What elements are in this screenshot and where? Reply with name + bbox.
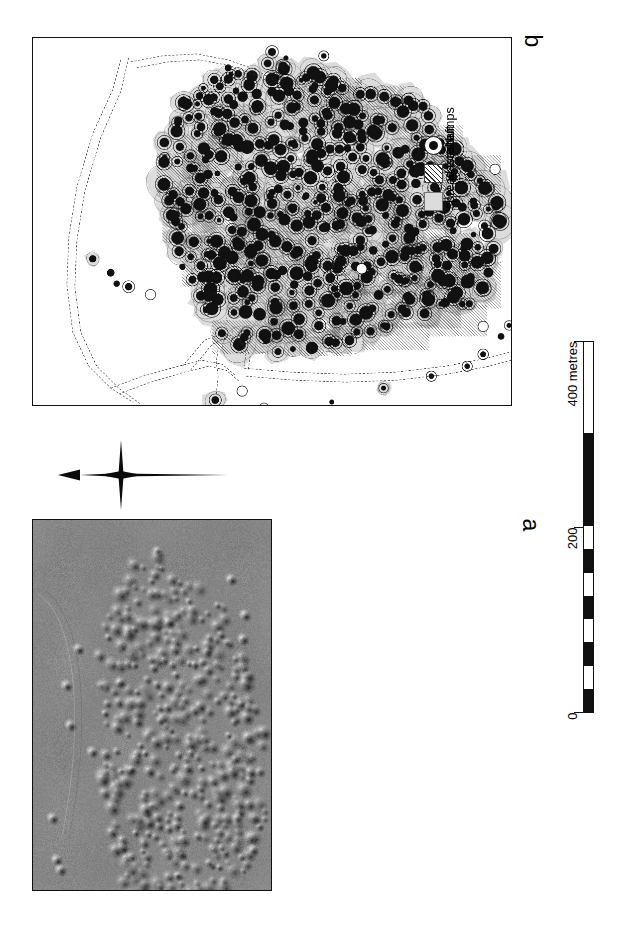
- figure-plate: b shaft waste dumps spread waste: [0, 0, 625, 925]
- scale-segment: [584, 549, 593, 572]
- waste-dumps-icon: [424, 164, 443, 183]
- scale-segment: [584, 689, 593, 712]
- scale-segment: [584, 642, 593, 665]
- scale-segment: [584, 596, 593, 619]
- aerial-photograph-canvas: [33, 520, 271, 890]
- scale-label-200: 200: [565, 528, 580, 562]
- panel-letter-a: a: [516, 512, 542, 538]
- scale-segment: [584, 433, 593, 526]
- scale-label-0: 0: [565, 713, 580, 737]
- aerial-photo-panel-a: [32, 519, 272, 891]
- panel-letter-b: b: [518, 28, 544, 54]
- map-legend: shaft waste dumps spread waste: [424, 60, 464, 240]
- north-arrow-icon: [50, 435, 235, 515]
- scale-label-400: 400 metres: [565, 342, 580, 422]
- scale-bar: [583, 341, 594, 713]
- shaft-icon: [424, 136, 443, 155]
- north-arrow-svg: [50, 435, 235, 515]
- legend-label-spread-waste: spread waste: [443, 135, 457, 209]
- spread-waste-icon: [424, 192, 443, 211]
